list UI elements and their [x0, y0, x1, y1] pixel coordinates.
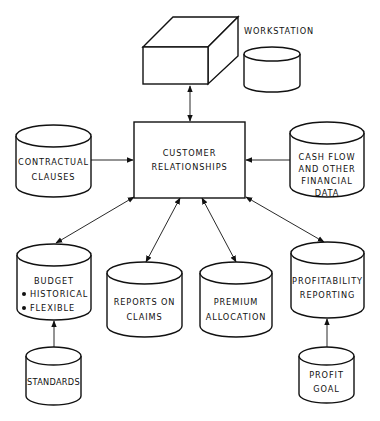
customer-label-line2: RELATIONSHIPS — [151, 162, 227, 172]
budget-bullet-historical: HISTORICAL — [30, 289, 88, 299]
edge-premium-customer — [202, 198, 236, 262]
reports-line2: CLAIMS — [126, 312, 162, 322]
profit-goal-cylinder: PROFIT GOAL — [299, 347, 354, 403]
workstation-box — [143, 17, 238, 84]
standards-cylinder: STANDARDS — [26, 347, 81, 405]
contractual-clauses-cylinder: CONTRACTUAL CLAUSES — [16, 125, 91, 197]
standards-line1: STANDARDS — [27, 377, 80, 387]
contractual-line2: CLAUSES — [32, 172, 76, 182]
reports-line1: REPORTS ON — [114, 297, 176, 307]
cash-flow-cylinder: CASH FLOW AND OTHER FINANCIAL DATA — [290, 122, 364, 198]
workstation-storage-cylinder — [244, 47, 300, 92]
profitability-line1: PROFITABILITY — [292, 276, 363, 286]
edge-profitability-customer — [246, 197, 324, 242]
profitability-reporting-cylinder: PROFITABILITY REPORTING — [291, 242, 364, 318]
cashflow-line2: AND OTHER — [298, 164, 355, 174]
bullet-icon — [22, 306, 26, 310]
budget-line1: BUDGET — [34, 276, 74, 286]
edge-reports-customer — [146, 198, 180, 262]
bullet-icon — [22, 292, 26, 296]
customer-relationships-box: CUSTOMER RELATIONSHIPS — [134, 122, 245, 198]
edge-budget-customer — [56, 197, 134, 243]
budget-bullet-flexible: FLEXIBLE — [30, 303, 75, 313]
reports-on-claims-cylinder: REPORTS ON CLAIMS — [107, 262, 182, 337]
premium-line2: ALLOCATION — [206, 312, 267, 322]
diagram-canvas: WORKSTATION CUSTOMER RELATIONSHIPS CONTR… — [0, 0, 380, 421]
cashflow-line4: DATA — [315, 188, 340, 198]
cashflow-line3: FINANCIAL — [301, 176, 352, 186]
budget-cylinder: BUDGET HISTORICAL FLEXIBLE — [17, 244, 91, 320]
customer-label-line1: CUSTOMER — [163, 148, 216, 158]
profitability-line2: REPORTING — [300, 290, 355, 300]
premium-line1: PREMIUM — [214, 297, 259, 307]
cashflow-line1: CASH FLOW — [299, 152, 356, 162]
contractual-line1: CONTRACTUAL — [18, 157, 89, 167]
profitgoal-line2: GOAL — [313, 384, 339, 394]
premium-allocation-cylinder: PREMIUM ALLOCATION — [200, 262, 272, 337]
profitgoal-line1: PROFIT — [309, 370, 344, 380]
workstation-label: WORKSTATION — [244, 26, 314, 36]
